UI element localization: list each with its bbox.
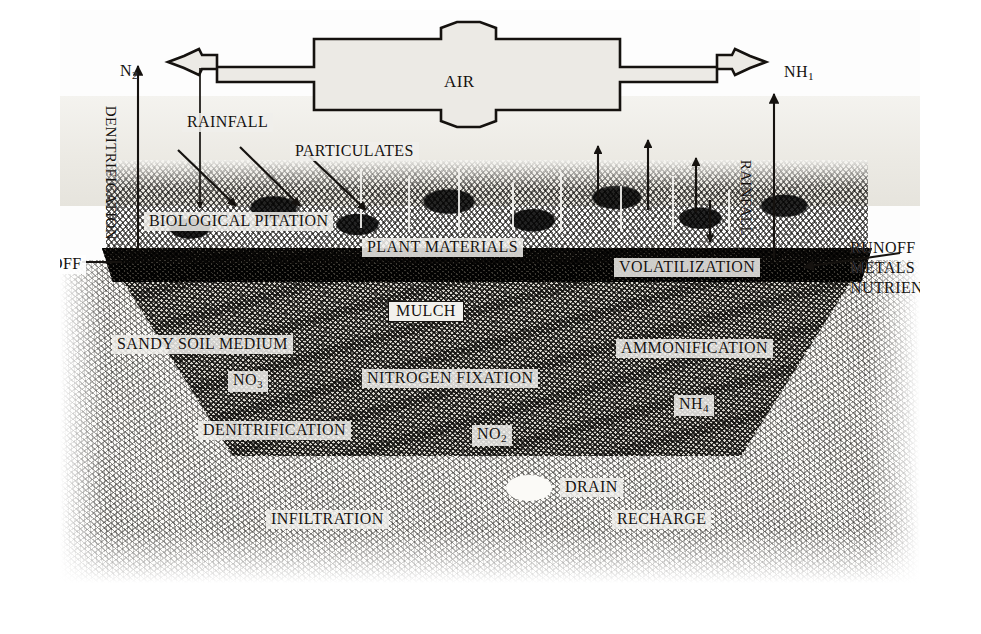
infiltration-label: INFILTRATION (266, 510, 389, 529)
mulch-label: MULCH (388, 301, 464, 322)
scanned-figure-plate: AIR N2 NH1 DENITRIFICATION RAINFALL RAIN… (60, 10, 920, 588)
drain-label: DRAIN (560, 478, 623, 497)
nitrate-subscript: 3 (257, 378, 263, 390)
denitrification-vertical-label: DENITRIFICATION (102, 83, 118, 263)
ammonification-label: AMMONIFICATION (616, 339, 773, 358)
outflow-line-metals: METALS (850, 258, 920, 278)
deposition-arrow (178, 150, 236, 206)
deposition-arrow (308, 155, 366, 210)
diagram-vector-overlay (60, 10, 920, 588)
nitrate-formula: NO (233, 371, 257, 388)
n2-symbol: N (120, 62, 132, 79)
air-label: AIR (444, 73, 474, 91)
ammonium-species-label: NH4 (674, 395, 714, 416)
rainfall-left-label: RAINFALL (182, 113, 273, 132)
ammonium-subscript: 4 (703, 402, 709, 414)
n2-label: N2 (120, 63, 138, 82)
runoff-metals-nutrients-label: RUNOFF METALS NUTRIENTS (850, 238, 920, 297)
volatilization-label: VOLATILIZATION (614, 258, 760, 277)
sandy-soil-medium-label: SANDY SOIL MEDIUM (112, 335, 293, 354)
runoff-left-label: RUNOFF (60, 255, 86, 274)
denitrification-soil-label: DENITRIFICATION (198, 421, 351, 440)
recharge-label: RECHARGE (612, 510, 711, 529)
plant-materials-label: PLANT MATERIALS (362, 238, 523, 257)
nitrogen-fixation-label: NITROGEN FIXATION (362, 369, 538, 388)
nitrate-species-label: NO3 (228, 371, 268, 392)
rainfall-right-label: RAINFALL (737, 133, 753, 263)
outflow-line-nutrients: NUTRIENTS (850, 278, 920, 298)
nitrite-species-label: NO2 (472, 425, 512, 446)
nitrite-formula: NO (477, 425, 501, 442)
nh-subscript: 1 (808, 70, 814, 82)
underdrain-pipe (506, 475, 552, 501)
nh-symbol: NH (784, 63, 808, 80)
biological-pitation-label: BIOLOGICAL PITATION (144, 212, 333, 231)
nitrite-subscript: 2 (501, 432, 507, 444)
figure-canvas: AIR N2 NH1 DENITRIFICATION RAINFALL RAIN… (0, 0, 981, 634)
particulates-label: PARTICULATES (290, 142, 419, 161)
n2-subscript: 2 (132, 69, 138, 81)
outflow-line-runoff: RUNOFF (850, 238, 920, 258)
ammonium-formula: NH (679, 395, 703, 412)
nh-label: NH1 (784, 64, 814, 83)
